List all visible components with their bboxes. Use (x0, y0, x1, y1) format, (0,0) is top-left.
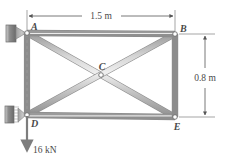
dimension-label-span: 1.5 m (90, 11, 112, 21)
support-pin-D (5, 106, 26, 123)
joint-A (25, 31, 30, 36)
dimension-span-width: 1.5 m (27, 10, 175, 31)
joint-label-C: C (99, 61, 106, 72)
joint-label-A: A (30, 21, 38, 32)
truss-diagram-figure: A B C D E 1.5 m 0.8 m (0, 0, 229, 161)
applied-load-label: 16 kN (33, 145, 57, 155)
joint-label-E: E (173, 121, 181, 132)
member-DE (27, 115, 175, 117)
dimension-truss-height: 0.8 m (179, 34, 216, 117)
joint-E (173, 115, 178, 120)
joint-C (99, 73, 104, 78)
joint-label-B: B (179, 23, 187, 34)
truss-diagram-canvas: A B C D E 1.5 m 0.8 m (0, 0, 229, 161)
joint-B (173, 32, 178, 37)
member-AB (27, 33, 175, 34)
dimension-label-height: 0.8 m (194, 73, 216, 83)
support-pin-A (6, 25, 26, 42)
joint-label-D: D (30, 118, 38, 129)
